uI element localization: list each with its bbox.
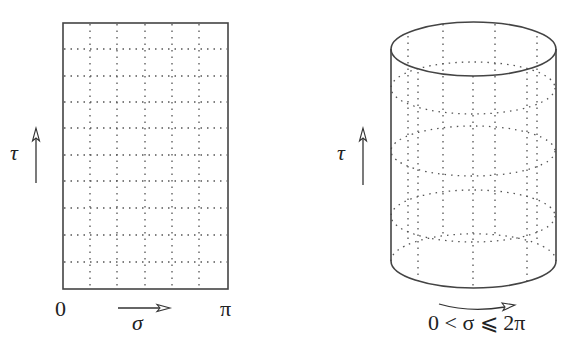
closed-sigma-range-label: 0 < σ ⩽ 2π [428, 312, 525, 334]
open-sigma-label: σ [132, 312, 143, 334]
cylinder-grid [391, 24, 556, 288]
closed-string-worldsheet [360, 22, 557, 311]
worldsheet-diagram [0, 0, 570, 355]
open-right-endpoint-label: π [220, 298, 231, 320]
open-tau-label: τ [10, 142, 18, 164]
rectangle-grid [64, 24, 227, 288]
sigma-arrow-icon [118, 305, 170, 312]
closed-tau-label: τ [337, 142, 345, 164]
open-left-endpoint-label: 0 [55, 298, 66, 320]
tau-arrow-icon [33, 128, 40, 183]
tau-arrow-icon [360, 128, 367, 185]
open-string-worldsheet [33, 23, 229, 312]
rectangle-border [63, 23, 228, 289]
